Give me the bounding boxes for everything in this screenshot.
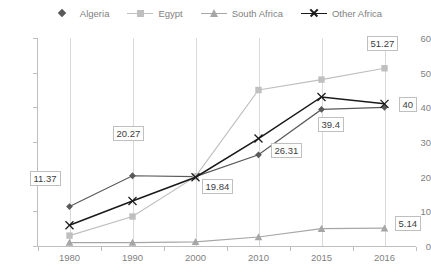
x-axis-tick-mark [164,247,165,251]
legend-item-south-africa[interactable]: South Africa [201,8,283,19]
series-layer [38,38,416,246]
series-line [70,228,385,242]
data-point-x-marker [255,135,263,143]
x-axis-tick-label: 2010 [229,252,289,263]
data-label: 5.14 [395,216,422,231]
x-axis-tick-label: 1980 [40,252,100,263]
x-axis-tick-label: 2000 [166,252,226,263]
chart-legend: AlgeriaEgyptSouth AfricaOther Africa [0,4,431,22]
series-egypt [66,65,387,239]
x-axis-tick-mark [416,247,417,251]
legend-item-label: Egypt [158,8,182,19]
diamond-marker [49,8,75,18]
x-axis-tick-mark [227,247,228,251]
x-axis-tick-mark [101,247,102,251]
legend-item-algeria[interactable]: Algeria [49,8,110,19]
legend-item-label: Other Africa [332,8,382,19]
x-axis-tick-label: 2015 [292,252,352,263]
data-label: 20.27 [113,126,145,141]
legend-item-other-africa[interactable]: Other Africa [301,8,382,19]
data-label: 19.84 [202,179,234,194]
data-point-square-marker [318,76,324,82]
data-label: 26.31 [271,143,303,158]
data-point-diamond-marker [66,203,73,210]
series-south-africa [66,224,389,245]
data-point-square-marker [255,87,261,93]
y-axis-tick-mark [33,246,37,247]
x-marker [301,8,327,18]
data-point-square-marker [66,232,72,238]
legend-item-label: South Africa [232,8,283,19]
legend-item-egypt[interactable]: Egypt [127,8,182,19]
data-label: 40 [399,97,418,112]
data-point-diamond-marker [129,172,136,179]
y-axis-tick-mark [33,38,37,39]
y-axis-tick-mark [33,211,37,212]
data-label: 39.4 [318,117,345,132]
x-axis-tick-mark [290,247,291,251]
triangle-marker [201,8,227,18]
square-marker [127,8,153,18]
series-line [70,68,385,235]
plot-area: 11.3720.2726.3139.44051.275.1419.84 [38,38,416,246]
data-point-x-marker [66,221,74,229]
y-axis-tick-mark [33,73,37,74]
y-axis-tick-mark [33,107,37,108]
x-axis-tick-mark [353,247,354,251]
data-point-x-marker [129,197,137,205]
x-axis-tick-label: 1990 [103,252,163,263]
data-point-square-marker [381,65,387,71]
legend-item-label: Algeria [80,8,110,19]
series-line [70,97,385,225]
y-axis-tick-mark [33,142,37,143]
series-other-africa [66,93,389,229]
data-point-diamond-marker [381,104,388,111]
data-point-square-marker [129,213,135,219]
x-axis-tick-label: 2016 [355,252,415,263]
x-axis-tick-mark [38,247,39,251]
line-chart: AlgeriaEgyptSouth AfricaOther Africa 010… [0,0,431,276]
data-label: 11.37 [30,171,61,186]
data-label: 51.27 [367,36,399,51]
